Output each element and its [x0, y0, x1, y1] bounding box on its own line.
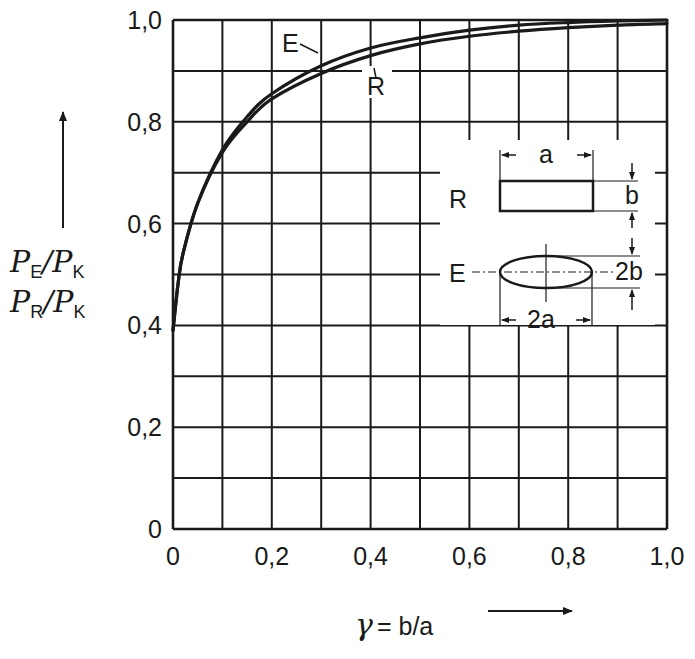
dim-2a: 2a — [527, 305, 555, 333]
curve-label-e: E — [282, 29, 299, 57]
x-tick-label: 0,8 — [551, 542, 586, 570]
y-tick-label: 1,0 — [127, 6, 162, 34]
svg-text:γ= b/a: γ= b/a — [355, 607, 433, 642]
y-axis-label: PE/PK PR/PK — [9, 112, 86, 322]
x-tick-label: 0 — [166, 542, 180, 570]
y-axis-ticks: 00,20,40,60,81,0 — [127, 6, 162, 543]
curve-label-e-leader — [300, 44, 318, 53]
dim-a: a — [539, 140, 553, 168]
x-tick-label: 1,0 — [650, 542, 685, 570]
dim-2b: 2b — [615, 257, 643, 285]
x-tick-label: 0,4 — [353, 542, 388, 570]
svg-text:PE/PK: PE/PK — [9, 244, 85, 282]
dim-b: b — [625, 181, 639, 209]
x-tick-label: 0,6 — [452, 542, 487, 570]
shape-inset: R a b E 2b 2a — [440, 140, 655, 333]
x-axis-ticks: 00,20,40,60,81,0 — [166, 542, 684, 570]
y-tick-label: 0,6 — [127, 210, 162, 238]
y-tick-label: 0,2 — [127, 413, 162, 441]
svg-text:PR/PK: PR/PK — [9, 284, 86, 322]
chart: 00,20,40,60,81,0 00,20,40,60,81,0 E R R … — [0, 0, 695, 659]
x-axis-label: γ= b/a — [355, 607, 572, 642]
inset-label-e: E — [449, 259, 466, 287]
y-tick-label: 0,4 — [127, 311, 162, 339]
x-tick-label: 0,2 — [254, 542, 289, 570]
inset-label-r: R — [449, 185, 467, 213]
y-tick-label: 0,8 — [127, 108, 162, 136]
y-tick-label: 0 — [148, 515, 162, 543]
